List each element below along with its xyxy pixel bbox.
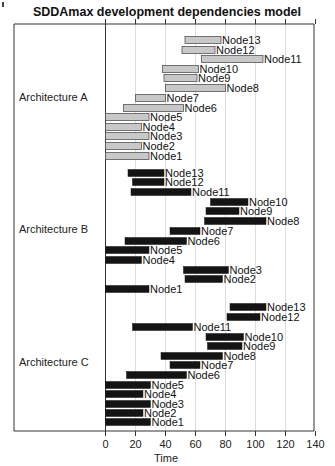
task-bar	[230, 304, 266, 311]
task-bar	[205, 218, 267, 225]
task-bar	[166, 85, 226, 92]
task-bar	[131, 189, 191, 196]
task-bar	[106, 247, 150, 254]
task-bar	[185, 37, 221, 44]
x-axis-label: Time	[154, 452, 178, 464]
task-bar	[170, 228, 200, 235]
task-bar	[164, 75, 197, 82]
group-labels: Architecture AArchitecture BArchitecture…	[19, 91, 89, 368]
gantt-chart: SDDAmax development dependencies model N…	[0, 0, 335, 466]
x-tick-label: 60	[189, 438, 201, 450]
task-bar	[106, 419, 151, 426]
task-bar	[128, 170, 164, 177]
x-tick-label: 80	[219, 438, 231, 450]
chart-title: SDDAmax development dependencies model	[33, 5, 301, 19]
task-label: Node4	[143, 254, 175, 266]
task-bar	[184, 267, 229, 274]
task-label: Node1	[150, 150, 182, 162]
task-label: Node11	[194, 321, 232, 333]
task-bar	[170, 362, 200, 369]
task-label: Node6	[185, 102, 217, 114]
group-label: Architecture B	[19, 223, 88, 235]
task-label: Node8	[267, 215, 299, 227]
task-bar	[163, 66, 199, 73]
x-tick-label: 40	[159, 438, 171, 450]
task-bar	[106, 410, 144, 417]
task-label: Node6	[188, 235, 220, 247]
x-tick-label: 100	[246, 438, 264, 450]
task-bar	[106, 133, 150, 140]
task-label: Node11	[192, 186, 230, 198]
task-bar	[182, 47, 215, 54]
task-bar	[185, 276, 223, 283]
task-label: Node2	[224, 273, 256, 285]
task-bar	[127, 372, 187, 379]
task-bar	[106, 286, 150, 293]
x-tick-label: 0	[102, 438, 108, 450]
task-bar	[136, 95, 166, 102]
task-bar	[106, 143, 142, 150]
corner-mark	[2, 2, 4, 7]
task-label: Node1	[152, 416, 184, 428]
task-bar	[206, 208, 239, 215]
task-bar	[133, 324, 193, 331]
task-label: Node12	[261, 311, 300, 323]
task-label: Node12	[216, 44, 255, 56]
task-bar	[106, 114, 150, 121]
task-bar	[133, 179, 165, 186]
task-label: Node11	[264, 53, 302, 65]
task-bar	[106, 257, 142, 264]
task-label: Node8	[227, 82, 259, 94]
task-bar	[202, 56, 264, 63]
x-tick-label: 140	[306, 438, 324, 450]
group-label: Architecture C	[19, 356, 89, 368]
task-bar	[208, 343, 243, 350]
task-bar	[106, 124, 142, 131]
task-label: Node6	[188, 369, 220, 381]
x-tick-label: 20	[129, 438, 141, 450]
task-bar	[106, 153, 150, 160]
group-label: Architecture A	[19, 91, 88, 103]
task-bar	[206, 334, 244, 341]
task-bar	[106, 391, 144, 398]
x-tick-label: 120	[276, 438, 294, 450]
task-label: Node1	[150, 283, 182, 295]
task-bar	[227, 314, 260, 321]
